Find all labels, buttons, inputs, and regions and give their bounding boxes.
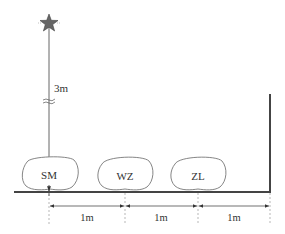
object-label: SM	[41, 169, 57, 181]
dimension-label: 1m	[80, 212, 93, 223]
object-sm: SM	[22, 157, 78, 190]
object-label: WZ	[116, 170, 133, 182]
diagram-canvas: 3m SM WZ ZL 1m 1m 1m	[0, 0, 285, 234]
object-wz: WZ	[98, 157, 153, 190]
dimension-label: 1m	[227, 212, 240, 223]
object-zl: ZL	[171, 157, 226, 190]
dimension-label: 1m	[154, 212, 167, 223]
height-label: 3m	[54, 82, 69, 94]
object-label: ZL	[191, 170, 205, 182]
